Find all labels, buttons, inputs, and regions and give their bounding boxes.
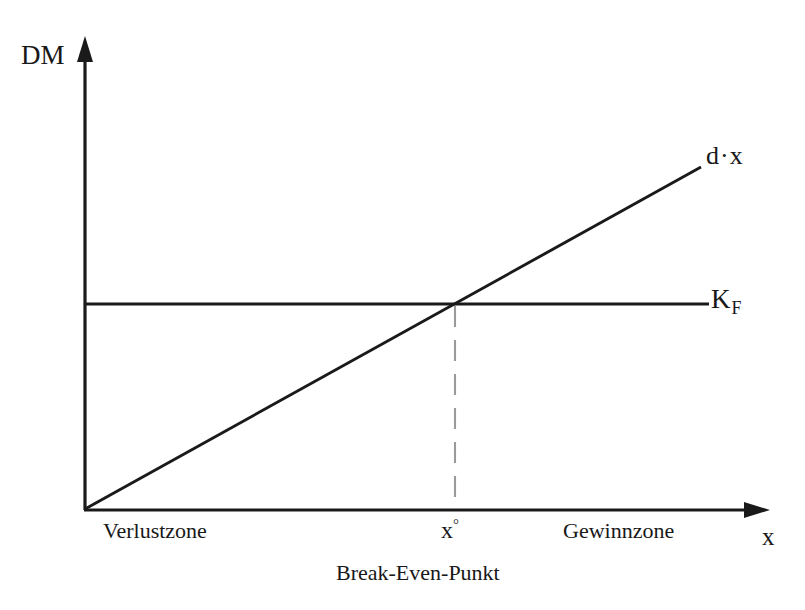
loss-zone-label: Verlustzone <box>103 520 207 542</box>
x-axis-arrowhead-icon <box>744 502 770 518</box>
profit-zone-label: Gewinnzone <box>563 520 674 542</box>
revenue-line-label: d·x <box>706 143 743 169</box>
chart-caption: Break-Even-Punkt <box>336 562 500 584</box>
revenue-line-label-dot: · <box>719 141 730 170</box>
revenue-line-label-d: d <box>706 141 719 170</box>
break-even-x-base: x <box>441 517 453 543</box>
fixed-cost-label-subscript: F <box>732 298 742 318</box>
y-axis-arrowhead-icon <box>77 36 93 62</box>
break-even-x-superscript: ° <box>453 516 459 532</box>
x-axis-label: x <box>762 524 775 549</box>
fixed-cost-label-k: K <box>711 284 731 314</box>
break-even-chart: DM x d·x KF Verlustzone Gewinnzone x° Br… <box>0 0 805 610</box>
break-even-x-label: x° <box>441 518 459 542</box>
y-axis-label: DM <box>21 42 65 69</box>
revenue-line <box>85 167 701 509</box>
revenue-line-label-x: x <box>730 141 743 170</box>
fixed-cost-line-label: KF <box>711 286 740 313</box>
